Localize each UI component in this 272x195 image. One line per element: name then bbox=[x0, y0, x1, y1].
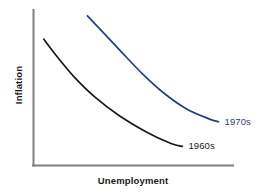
x-axis-label: Unemployment bbox=[33, 175, 233, 186]
series-label-1970s: 1970s bbox=[225, 116, 251, 127]
chart-plot-area bbox=[0, 0, 272, 195]
series-line-1960s bbox=[44, 39, 183, 146]
phillips-curve-chart: Inflation Unemployment 1970s 1960s bbox=[0, 0, 272, 195]
series-label-1960s: 1960s bbox=[188, 140, 214, 151]
y-axis-label: Inflation bbox=[12, 20, 26, 150]
